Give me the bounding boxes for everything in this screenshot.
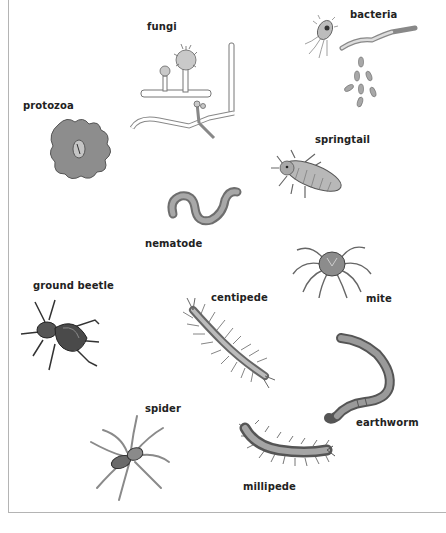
centipede-illustration <box>179 298 279 390</box>
millipede-illustration <box>235 420 340 475</box>
label-nematode: nematode <box>145 238 202 249</box>
label-ground-beetle: ground beetle <box>33 280 114 291</box>
spider-illustration <box>81 416 181 506</box>
mite-illustration <box>289 240 379 300</box>
label-millipede: millipede <box>243 481 296 492</box>
label-spider: spider <box>145 403 181 414</box>
nematode-illustration <box>167 186 242 236</box>
springtail-illustration <box>271 146 351 206</box>
label-fungi: fungi <box>147 21 177 32</box>
protozoa-illustration <box>47 116 117 184</box>
fungi-illustration <box>129 38 239 138</box>
label-springtail: springtail <box>315 134 370 145</box>
earthworm-illustration <box>321 332 411 427</box>
label-protozoa: protozoa <box>23 100 74 111</box>
illustration-panel: fungi bacteria protozoa springtail nemat… <box>8 0 446 513</box>
ground-beetle-illustration <box>19 298 109 378</box>
bacteria-illustration <box>297 14 417 114</box>
